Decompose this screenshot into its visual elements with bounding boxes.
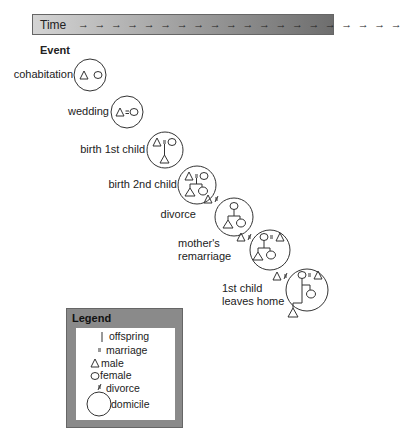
male-icon [153, 138, 161, 146]
legend-body: offspring marriage male female divorce d… [76, 328, 175, 420]
female-icon [199, 187, 208, 195]
legend-item-divorce: divorce [106, 382, 140, 394]
domicile-icon [87, 392, 111, 416]
male-icon [116, 108, 124, 116]
domicile-wedding [111, 96, 143, 128]
domicile-divorce [204, 195, 253, 236]
male-icon [288, 308, 298, 317]
male-icon [185, 172, 193, 180]
legend-item-marriage: marriage [106, 344, 147, 356]
male-icon [273, 272, 281, 280]
legend-title: Legend [72, 312, 111, 324]
domicile-1st-child-leaves-home [273, 269, 328, 317]
male-icon [223, 220, 233, 228]
domicile-birth-2nd-child [178, 166, 216, 204]
female-icon [298, 272, 306, 279]
female-icon [200, 173, 208, 180]
legend-item-domicile: domicile [111, 398, 150, 410]
legend: Legend offspring marriage male female di… [66, 308, 183, 428]
male-icon [160, 155, 169, 163]
legend-item-offspring: offspring [109, 330, 149, 342]
female-icon [260, 234, 268, 241]
female-icon [237, 219, 246, 227]
female-icon [168, 139, 176, 146]
domicile-birth-1st-child [147, 132, 183, 168]
female-icon [94, 72, 102, 79]
female-icon [130, 109, 138, 116]
male-icon [91, 359, 99, 367]
male-icon [253, 252, 263, 260]
female-icon [230, 203, 238, 210]
domicile-mothers-remarriage [237, 230, 290, 270]
legend-item-male: male [101, 357, 124, 369]
legend-item-female: female [100, 369, 132, 381]
domicile-cohabitation [74, 59, 106, 91]
male-icon [185, 188, 195, 196]
female-icon [307, 290, 316, 298]
female-icon [91, 373, 99, 380]
male-icon [80, 71, 88, 79]
female-icon [267, 251, 276, 259]
